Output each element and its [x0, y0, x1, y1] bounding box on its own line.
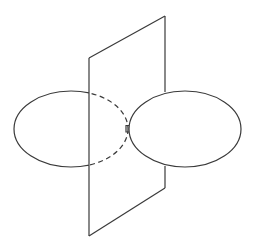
- right-ellipse: [129, 91, 241, 167]
- plane-bottom-edge: [89, 188, 165, 236]
- diagram-canvas: [0, 0, 255, 249]
- plane-top-edge: [89, 16, 165, 58]
- left-ellipse: [14, 91, 128, 167]
